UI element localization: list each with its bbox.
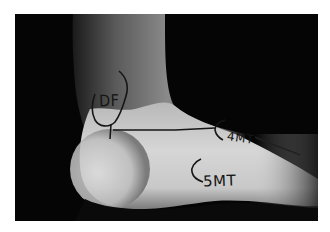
annotation-5mt: 5MT (203, 171, 237, 190)
toe-shadow (255, 134, 318, 214)
foot-photograph: DF 4MT 5MT (15, 14, 318, 221)
heel-region (70, 129, 150, 209)
foot-illustration (15, 14, 318, 221)
df-tick-mark (110, 124, 111, 139)
annotation-df: DF (99, 91, 120, 111)
